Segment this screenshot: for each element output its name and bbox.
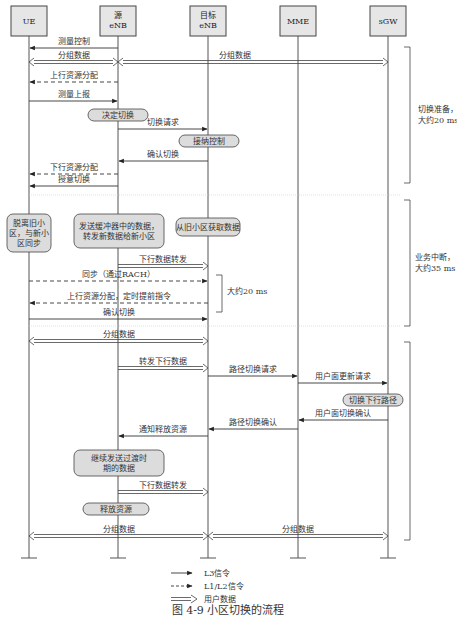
action-label: 从旧小区获取数据: [176, 222, 240, 232]
participant-label: 目标: [200, 10, 216, 20]
legend: L3信令L1/L2信令用户数据: [171, 568, 244, 604]
data-arrowhead: [29, 58, 34, 66]
message-label: 上行资源分配，定时提前指令: [67, 291, 171, 301]
action-box: 释放资源: [83, 503, 149, 515]
action-box: 脱离旧小区，与新小区同步: [7, 214, 51, 252]
data-arrowhead: [113, 58, 118, 66]
bracket-label: 切换准备，: [418, 104, 457, 114]
message-solid: 确认切换: [119, 149, 208, 161]
message-label: 下行数据转发: [139, 254, 187, 264]
action-label: 脱离旧小: [13, 218, 45, 228]
timing-bracket: 切换准备，大约20 ms: [404, 47, 457, 183]
action-label: 区，与新小: [9, 228, 49, 238]
action-box: 接纳控制: [179, 135, 239, 147]
timing-bracket: [404, 342, 410, 540]
message-solid: 用户面更新请求: [298, 371, 387, 383]
participant-label: sGW: [379, 17, 398, 26]
action-label: 释放资源: [100, 504, 132, 514]
action-box: 决定切换: [88, 109, 148, 121]
message-label: 切换请求: [147, 117, 179, 127]
legend-item-solid: L3信令: [171, 568, 230, 578]
bracket-label: 大约20 ms: [227, 286, 267, 296]
message-label: 分组数据: [103, 329, 135, 339]
message-label: 测量上报: [58, 89, 90, 99]
action-label: 决定切换: [102, 110, 134, 120]
bracket-shape: [404, 47, 410, 183]
action-label: 转发新数据给新小区: [83, 231, 155, 241]
bracket-label: 业务中断，: [415, 252, 455, 262]
message-label: 分组数据: [282, 524, 314, 534]
action-shape: [74, 214, 164, 248]
participant-ue: UE: [11, 6, 47, 558]
message-label: 授意切换: [58, 174, 90, 184]
message-label: 上行资源分配: [50, 70, 98, 80]
action-label: 接纳控制: [193, 136, 225, 146]
data-arrowhead: [29, 532, 34, 540]
message-label: 用户面切换确认: [315, 408, 371, 418]
message-label: 确认切换: [103, 307, 135, 317]
action-label: 继续发送过渡时: [91, 453, 147, 463]
message-label: 转发下行数据: [139, 356, 187, 366]
data-arrowhead: [383, 58, 388, 66]
legend-swatch: [191, 595, 197, 603]
message-label: 分组数据: [103, 524, 135, 534]
legend-item-dashed: L1/L2信令: [171, 581, 244, 591]
data-arrowhead: [383, 532, 388, 540]
data-arrowhead: [29, 337, 34, 345]
figure-caption: 图 4-9 小区切换的流程: [172, 603, 285, 617]
message-label: 同步（通过RACH）: [82, 269, 155, 279]
message-label: 测量控制: [58, 36, 90, 46]
message-label: 路径切换确认: [229, 417, 277, 427]
data-arrowhead: [203, 262, 208, 270]
action-label: 区同步: [17, 239, 41, 248]
message-data-both: 分组数据: [208, 524, 388, 540]
message-label: 路径切换请求: [229, 364, 277, 374]
legend-item-data: 用户数据: [171, 594, 236, 604]
message-solid: 路径切换请求: [208, 364, 297, 376]
participant-mme: MME: [280, 6, 316, 558]
timing-bracket: 大约20 ms: [216, 275, 267, 312]
bracket-label: 大约20 ms: [418, 115, 457, 125]
message-solid: 通知释放资源: [119, 424, 208, 436]
participant-label: 源: [114, 11, 122, 20]
action-label: 切换下行路径: [349, 395, 397, 405]
participant-label: eNB: [109, 21, 127, 30]
action-box: 切换下行路径: [343, 394, 403, 406]
bracket-label: 大约35 ms: [415, 263, 455, 273]
message-dashed: 上行资源分配，定时提前指令: [30, 291, 208, 303]
participants: UE源eNB目标eNBMMEsGW: [11, 6, 406, 558]
data-arrowhead: [118, 58, 123, 66]
data-arrowhead: [203, 364, 208, 372]
message-data: 下行数据转发: [118, 480, 208, 496]
message-solid: 授意切换: [30, 174, 118, 186]
action-label: 期的数据: [103, 463, 135, 473]
handover-sequence-diagram: UE源eNB目标eNBMMEsGW 决定切换接纳控制脱离旧小区，与新小区同步发送…: [0, 0, 457, 627]
message-label: 分组数据: [58, 50, 90, 60]
message-solid: 测量控制: [30, 36, 118, 48]
message-data-both: 分组数据: [29, 524, 208, 540]
action-box: 从旧小区获取数据: [176, 218, 240, 236]
legend-label: L1/L2信令: [204, 581, 244, 591]
data-arrowhead: [203, 532, 208, 540]
legend-label: 用户数据: [204, 594, 236, 604]
bracket-shape: [404, 200, 410, 326]
message-data: 转发下行数据: [118, 356, 208, 372]
legend-label: L3信令: [204, 568, 230, 578]
participant-label: UE: [23, 17, 36, 26]
message-label: 通知释放资源: [139, 424, 187, 434]
message-label: 下行数据转发: [139, 480, 187, 490]
participant-label: eNB: [199, 21, 217, 30]
message-solid: 路径切换确认: [209, 417, 298, 429]
action-label: 发送缓冲器中的数据，: [79, 221, 159, 231]
participant-label: MME: [287, 17, 309, 26]
message-solid: 测量上报: [29, 89, 117, 101]
message-solid: 用户面切换确认: [299, 408, 388, 420]
message-data-both: 分组数据: [118, 50, 388, 66]
action-box: 继续发送过渡时期的数据: [74, 450, 164, 476]
timing-brackets: 切换准备，大约20 ms业务中断，大约35 ms大约20 ms: [216, 47, 457, 540]
message-dashed: 上行资源分配: [30, 70, 118, 82]
message-data: 下行数据转发: [118, 254, 208, 270]
message-label: 用户面更新请求: [315, 371, 371, 381]
data-arrowhead: [203, 337, 208, 345]
timing-bracket: 业务中断，大约35 ms: [404, 200, 455, 326]
